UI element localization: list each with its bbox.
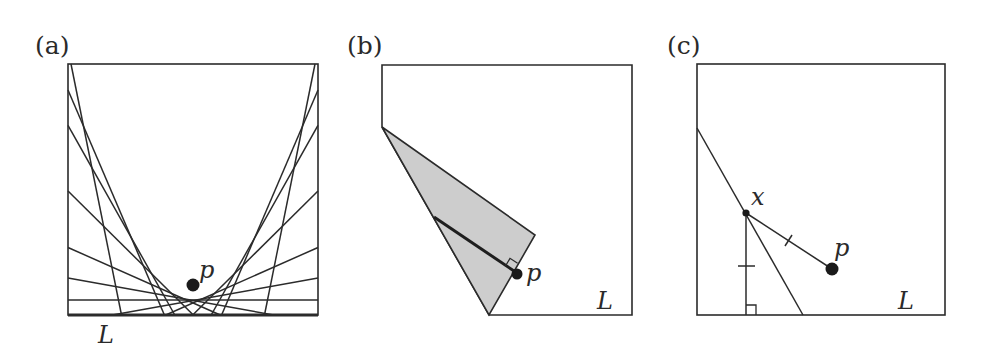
point-x bbox=[742, 209, 749, 216]
panel-a-label: (a) bbox=[35, 31, 69, 60]
crease-line bbox=[193, 191, 318, 315]
panel-c-label: (c) bbox=[667, 31, 701, 60]
panel-a: (a) p L bbox=[35, 31, 318, 349]
point-p-label: p bbox=[834, 234, 849, 262]
origami-parabola-figure: (a) p L (b) p L (c) x p L bbox=[0, 0, 993, 360]
panel-b-label: (b) bbox=[347, 31, 383, 60]
crease-line bbox=[112, 278, 318, 315]
panel-b: (b) p L bbox=[347, 31, 632, 315]
point-p bbox=[187, 279, 200, 292]
point-p bbox=[826, 263, 839, 276]
point-p-label: p bbox=[526, 259, 541, 287]
crease-line bbox=[71, 64, 122, 315]
line-L-label: L bbox=[897, 287, 914, 315]
crease-line bbox=[68, 191, 193, 315]
right-angle-marker bbox=[746, 305, 756, 315]
crease-line bbox=[697, 128, 803, 315]
point-p bbox=[512, 269, 523, 280]
equal-length-tick bbox=[785, 235, 792, 246]
crease-line bbox=[265, 64, 316, 315]
crease-line bbox=[68, 125, 175, 315]
point-p-label: p bbox=[199, 256, 214, 284]
paper-square bbox=[697, 64, 945, 315]
paper-square bbox=[68, 64, 318, 315]
point-x-label: x bbox=[751, 183, 765, 211]
crease-line bbox=[68, 278, 274, 315]
folded-flap bbox=[382, 127, 535, 315]
line-L-label: L bbox=[596, 287, 613, 315]
crease-line bbox=[211, 125, 318, 315]
crease-lines bbox=[68, 64, 318, 315]
line-L-label: L bbox=[97, 321, 114, 349]
panel-c: (c) x p L bbox=[667, 31, 945, 315]
